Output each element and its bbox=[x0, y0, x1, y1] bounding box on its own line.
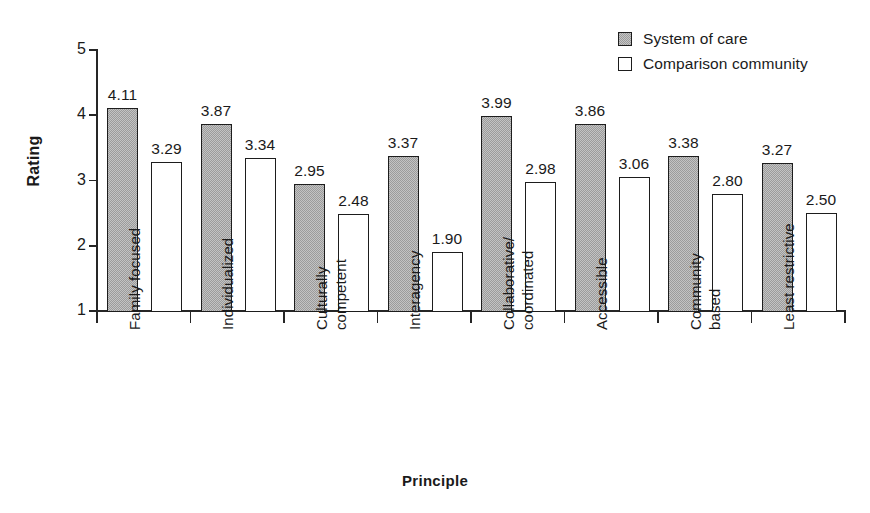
bar-value-label: 4.11 bbox=[93, 86, 153, 104]
bar-value-label: 2.48 bbox=[324, 192, 384, 210]
x-tick-mark bbox=[564, 311, 566, 323]
bar-value-label: 3.06 bbox=[604, 155, 664, 173]
y-tick-mark bbox=[89, 245, 98, 247]
x-category-label: based bbox=[706, 289, 723, 330]
legend-swatch-filled-icon bbox=[618, 32, 632, 46]
legend-label-system-of-care: System of care bbox=[643, 30, 748, 48]
x-category-label: Accessible bbox=[593, 257, 610, 330]
x-tick-mark bbox=[377, 311, 379, 323]
bar-value-label: 2.50 bbox=[791, 191, 851, 209]
bar-value-label: 3.34 bbox=[230, 136, 290, 154]
bar-comparison-community bbox=[432, 252, 463, 312]
y-tick-label: 5 bbox=[62, 40, 86, 58]
x-axis-title: Principle bbox=[0, 472, 870, 489]
y-tick-label: 3 bbox=[62, 171, 86, 189]
x-tick-mark bbox=[96, 311, 98, 323]
bar-value-label: 3.37 bbox=[373, 134, 433, 152]
bar-value-label: 3.99 bbox=[467, 94, 527, 112]
bar-comparison-community bbox=[151, 162, 182, 312]
x-category-label: Culturally bbox=[313, 266, 330, 330]
x-category-label: Family focused bbox=[126, 228, 143, 330]
x-category-label: Least restrictive bbox=[780, 223, 797, 330]
legend-label-comparison-community: Comparison community bbox=[643, 55, 808, 73]
y-tick-mark bbox=[89, 49, 98, 51]
bar-value-label: 3.27 bbox=[747, 141, 807, 159]
x-tick-mark bbox=[190, 311, 192, 323]
bar-value-label: 2.80 bbox=[698, 172, 758, 190]
bar-value-label: 3.87 bbox=[186, 102, 246, 120]
bar-value-label: 3.29 bbox=[137, 140, 197, 158]
y-tick-label: 1 bbox=[62, 301, 86, 319]
y-tick-label: 2 bbox=[62, 236, 86, 254]
x-tick-mark bbox=[751, 311, 753, 323]
x-category-label: Individualized bbox=[219, 238, 236, 330]
legend-item-comparison-community: Comparison community bbox=[618, 51, 808, 76]
legend-item-system-of-care: System of care bbox=[618, 26, 808, 51]
bar-comparison-community bbox=[619, 177, 650, 312]
bar-value-label: 3.38 bbox=[654, 134, 714, 152]
x-tick-mark bbox=[657, 311, 659, 323]
x-tick-mark bbox=[283, 311, 285, 323]
y-axis-title: Rating bbox=[25, 125, 43, 197]
bar-value-label: 1.90 bbox=[417, 230, 477, 248]
x-tick-mark bbox=[844, 311, 846, 323]
bar-value-label: 3.86 bbox=[560, 102, 620, 120]
bar-comparison-community bbox=[245, 158, 276, 312]
y-tick-label: 4 bbox=[62, 105, 86, 123]
x-tick-mark bbox=[470, 311, 472, 323]
y-tick-mark bbox=[89, 114, 98, 116]
y-tick-mark bbox=[89, 180, 98, 182]
chart-legend: System of care Comparison community bbox=[618, 26, 808, 76]
bar-comparison-community bbox=[806, 213, 837, 312]
x-category-label: coordinated bbox=[519, 251, 536, 331]
x-category-label: competent bbox=[332, 259, 349, 330]
bar-value-label: 2.98 bbox=[511, 160, 571, 178]
legend-swatch-open-icon bbox=[618, 57, 632, 71]
bar-chart-figure: System of care Comparison community Rati… bbox=[0, 0, 870, 513]
x-category-label: Interagency bbox=[406, 251, 423, 330]
bar-value-label: 2.95 bbox=[280, 162, 340, 180]
x-category-label: Collaborative/ bbox=[500, 237, 517, 330]
x-category-label: Community bbox=[687, 253, 704, 330]
